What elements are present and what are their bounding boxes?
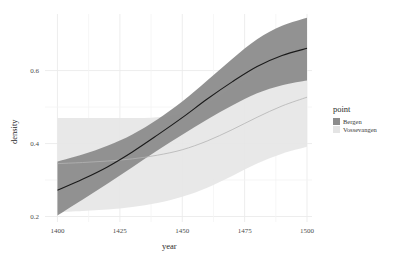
y-tick-label: 0.4 (17, 140, 39, 148)
chart-container: density year 0.20.40.6 14001425145014751… (0, 0, 394, 259)
x-axis-title: year (162, 241, 177, 251)
x-tick-label: 1500 (292, 227, 322, 235)
legend: point BergenVossevangen (333, 104, 391, 134)
x-tick-label: 1475 (230, 227, 260, 235)
legend-key-swatch (333, 126, 340, 133)
legend-title: point (333, 104, 391, 114)
x-tick-label: 1450 (167, 227, 197, 235)
y-tick-label: 0.2 (17, 213, 39, 221)
legend-key-swatch (333, 118, 340, 125)
legend-entry[interactable]: Vossevangen (333, 126, 391, 133)
legend-entry[interactable]: Bergen (333, 118, 391, 125)
x-tick-label: 1400 (42, 227, 72, 235)
legend-entry-label: Vossevangen (343, 126, 377, 133)
legend-entries: BergenVossevangen (333, 118, 391, 133)
y-tick-label: 0.6 (17, 67, 39, 75)
legend-entry-label: Bergen (343, 118, 362, 125)
x-tick-label: 1425 (105, 227, 135, 235)
